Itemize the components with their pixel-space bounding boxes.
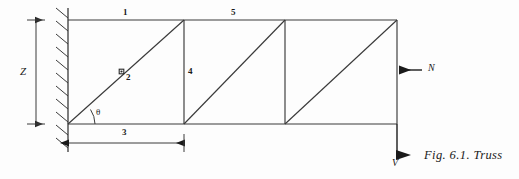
- angle-arc: [91, 110, 96, 125]
- fixed-wall-support: [56, 8, 68, 152]
- height-dimension-label: Z: [20, 66, 26, 77]
- figure-caption: Fig. 6.1. Truss: [424, 148, 503, 163]
- member-label-4: 4: [188, 67, 193, 76]
- member-label-3: 3: [122, 128, 127, 137]
- member-label-2: 2: [126, 73, 131, 82]
- angle-label: θ: [96, 108, 100, 117]
- truss-members: [68, 20, 397, 124]
- member-label-1: 1: [123, 8, 128, 17]
- wall-hatching: [56, 8, 68, 148]
- diagonal-2: [184, 20, 285, 124]
- node-marker-icon: [119, 69, 124, 74]
- height-dimension-line: [27, 20, 45, 124]
- member-label-5: 5: [231, 8, 236, 17]
- shear-force-label: V: [392, 158, 398, 168]
- normal-force-label: N: [428, 63, 435, 73]
- diagonal-3: [285, 20, 397, 124]
- truss-figure: 1 2 3 4 5 Z θ N V Fig. 6.1. Truss: [0, 0, 519, 179]
